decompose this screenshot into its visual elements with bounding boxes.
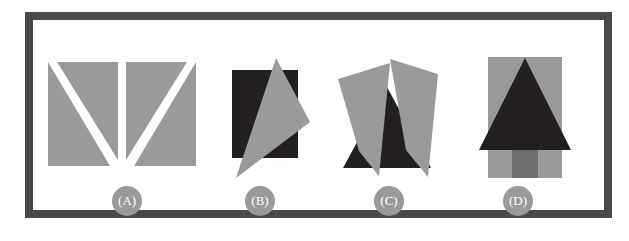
panel-label-c-text: (C) (380, 193, 397, 208)
figure-stage: (A) (B) (C) (D) (0, 0, 629, 241)
panel-label-a: (A) (112, 186, 142, 216)
panel-label-a-text: (A) (118, 193, 136, 208)
panel-label-b-text: (B) (251, 193, 268, 208)
panel-label-d: (D) (503, 186, 533, 216)
panel-label-b: (B) (245, 186, 275, 216)
panel-label-c: (C) (374, 186, 404, 216)
panel-label-d-text: (D) (509, 193, 527, 208)
